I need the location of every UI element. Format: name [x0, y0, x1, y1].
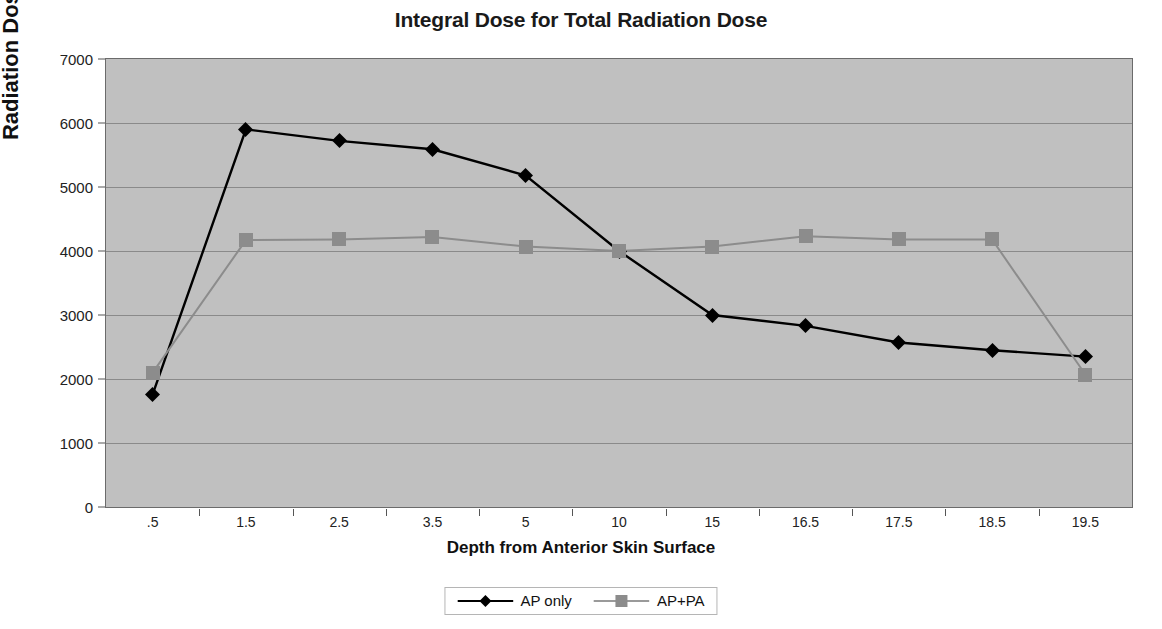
data-point[interactable]	[705, 308, 720, 323]
y-tick-label: 5000	[29, 179, 93, 196]
data-point[interactable]	[146, 366, 160, 380]
data-point-markers	[106, 59, 1132, 507]
x-tick-label: 2.5	[329, 514, 348, 530]
x-tick-label: 19.5	[1072, 514, 1099, 530]
data-point[interactable]	[1078, 349, 1093, 364]
x-tick-label: 1.5	[236, 514, 255, 530]
x-tick-label: 17.5	[885, 514, 912, 530]
x-tick-mark	[945, 509, 946, 516]
data-point[interactable]	[332, 232, 346, 246]
x-axis-title: Depth from Anterior Skin Surface	[0, 538, 1162, 558]
legend-marker-square-icon	[594, 593, 650, 609]
data-point[interactable]	[705, 240, 719, 254]
legend-item-ap-only[interactable]: AP only	[457, 592, 571, 609]
y-tick-mark	[98, 59, 105, 60]
x-tick-mark	[666, 509, 667, 516]
chart-container: Integral Dose for Total Radiation Dose R…	[0, 0, 1162, 629]
y-tick-label: 2000	[29, 371, 93, 388]
y-tick-label: 7000	[29, 51, 93, 68]
x-tick-mark	[199, 509, 200, 516]
data-point[interactable]	[985, 343, 1000, 358]
x-tick-label: .5	[147, 514, 159, 530]
x-tick-label: 15	[704, 514, 720, 530]
y-tick-mark	[98, 379, 105, 380]
data-point[interactable]	[425, 230, 439, 244]
x-tick-mark	[1039, 509, 1040, 516]
x-tick-mark	[293, 509, 294, 516]
data-point[interactable]	[238, 122, 253, 137]
y-tick-label: 3000	[29, 307, 93, 324]
chart-legend: AP only AP+PA	[444, 587, 717, 615]
data-point[interactable]	[985, 232, 999, 246]
legend-item-ap-pa[interactable]: AP+PA	[594, 592, 705, 609]
x-tick-label: 5	[522, 514, 530, 530]
data-point[interactable]	[612, 244, 626, 258]
legend-label-ap-pa: AP+PA	[657, 592, 705, 609]
data-point[interactable]	[1078, 368, 1092, 382]
data-point[interactable]	[519, 240, 533, 254]
y-tick-mark	[98, 251, 105, 252]
data-point[interactable]	[799, 229, 813, 243]
data-point[interactable]	[332, 133, 347, 148]
x-tick-label: 18.5	[978, 514, 1005, 530]
plot-area	[105, 58, 1133, 508]
x-tick-label: 10	[611, 514, 627, 530]
data-point[interactable]	[145, 387, 160, 402]
y-tick-label: 4000	[29, 243, 93, 260]
y-axis-title: Radiation Dose	[0, 0, 24, 210]
x-tick-mark	[572, 509, 573, 516]
data-point[interactable]	[425, 142, 440, 157]
x-tick-label: 3.5	[423, 514, 442, 530]
legend-label-ap-only: AP only	[520, 592, 571, 609]
data-point[interactable]	[891, 335, 906, 350]
data-point[interactable]	[239, 233, 253, 247]
y-tick-mark	[98, 187, 105, 188]
y-tick-label: 0	[29, 499, 93, 516]
y-tick-mark	[98, 507, 105, 508]
x-tick-mark	[386, 509, 387, 516]
y-tick-mark	[98, 123, 105, 124]
y-tick-label: 1000	[29, 435, 93, 452]
data-point[interactable]	[892, 232, 906, 246]
legend-marker-diamond-icon	[457, 593, 513, 609]
y-tick-mark	[98, 315, 105, 316]
data-point[interactable]	[518, 168, 533, 183]
chart-title: Integral Dose for Total Radiation Dose	[0, 8, 1162, 32]
x-tick-mark	[852, 509, 853, 516]
x-tick-label: 16.5	[792, 514, 819, 530]
x-tick-mark	[759, 509, 760, 516]
data-point[interactable]	[798, 318, 813, 333]
y-tick-mark	[98, 443, 105, 444]
x-tick-mark	[479, 509, 480, 516]
y-tick-label: 6000	[29, 115, 93, 132]
